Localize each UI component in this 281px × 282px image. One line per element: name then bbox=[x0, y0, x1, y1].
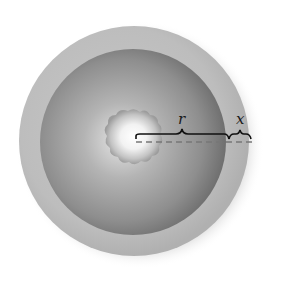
label-x: x bbox=[236, 110, 245, 128]
sphere-diagram: r x bbox=[0, 0, 281, 282]
label-r: r bbox=[178, 110, 186, 128]
diagram-canvas: r x bbox=[0, 0, 281, 282]
